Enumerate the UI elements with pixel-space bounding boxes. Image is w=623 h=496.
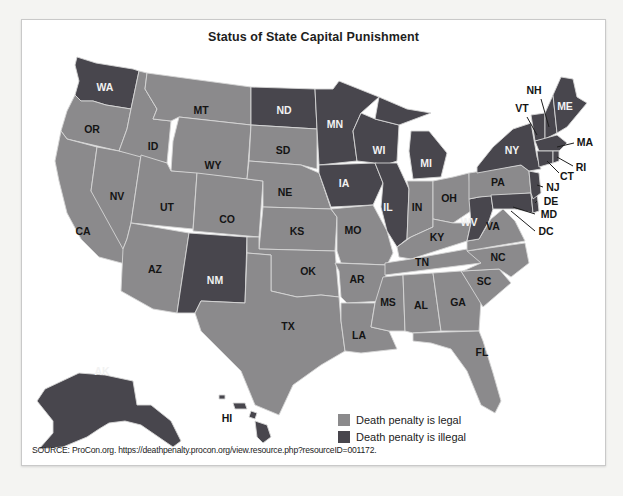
label-pa: PA — [491, 176, 505, 188]
label-la: LA — [352, 329, 366, 341]
label-mn: MN — [327, 118, 343, 130]
label-va: VA — [486, 220, 500, 232]
state-HI-4 — [255, 421, 271, 443]
label-or: OR — [84, 123, 100, 135]
legend-item-illegal: Death penalty is illegal — [338, 429, 466, 445]
label-al: AL — [414, 299, 429, 311]
label-ar: AR — [349, 273, 365, 285]
label-tn: TN — [415, 256, 429, 268]
label-wi: WI — [373, 144, 386, 156]
label-wy: WY — [205, 159, 222, 171]
label-oh: OH — [441, 192, 457, 204]
label-ms: MS — [380, 296, 396, 308]
state-MD — [491, 193, 533, 213]
label-ks: KS — [290, 225, 305, 237]
label-in: IN — [412, 201, 423, 213]
label-ny: NY — [505, 144, 520, 156]
state-MI — [409, 131, 447, 179]
us-map: WA OR CA NV ID MT WY UT CO AZ NM ND SD N… — [22, 20, 605, 465]
legend-label-illegal: Death penalty is illegal — [356, 431, 466, 443]
label-nj: NJ — [546, 181, 560, 193]
label-fl: FL — [476, 346, 489, 358]
label-sc: SC — [477, 275, 492, 287]
label-mi: MI — [420, 157, 432, 169]
label-nc: NC — [490, 251, 506, 263]
state-HI-3 — [249, 411, 257, 419]
label-vt: VT — [515, 102, 529, 114]
state-RI — [553, 151, 559, 163]
label-il: IL — [383, 201, 393, 213]
label-ne: NE — [278, 186, 293, 198]
label-de: DE — [544, 195, 559, 207]
label-hi: HI — [222, 412, 233, 424]
map-legend: Death penalty is legal Death penalty is … — [338, 412, 466, 446]
label-ca: CA — [75, 225, 91, 237]
label-ky: KY — [430, 231, 445, 243]
label-me: ME — [557, 100, 573, 112]
label-nh: NH — [526, 84, 541, 96]
state-FL — [413, 331, 501, 413]
label-ia: IA — [339, 177, 350, 189]
illegal-swatch — [338, 431, 350, 443]
leader-ri — [557, 157, 573, 166]
label-tx: TX — [281, 320, 294, 332]
map-figure: Status of State Capital Punishment — [21, 19, 606, 466]
label-ak: AK — [94, 365, 110, 377]
state-AK — [37, 373, 181, 449]
label-ma: MA — [577, 136, 594, 148]
legend-label-legal: Death penalty is legal — [356, 414, 461, 426]
state-HI-1 — [219, 395, 225, 399]
state-IA — [319, 163, 383, 207]
label-az: AZ — [148, 263, 163, 275]
state-MT — [145, 73, 251, 125]
label-id: ID — [148, 140, 159, 152]
label-mt: MT — [193, 104, 209, 116]
label-nv: NV — [110, 190, 125, 202]
label-ri: RI — [576, 161, 587, 173]
label-nd: ND — [276, 104, 292, 116]
label-dc: DC — [538, 225, 554, 237]
state-HI-2 — [233, 403, 247, 409]
label-co: CO — [219, 213, 235, 225]
label-sd: SD — [276, 144, 291, 156]
label-ut: UT — [160, 201, 175, 213]
legal-swatch — [338, 414, 350, 426]
state-MI-up — [375, 97, 431, 125]
label-ok: OK — [300, 265, 316, 277]
legend-item-legal: Death penalty is legal — [338, 412, 466, 428]
label-md: MD — [541, 208, 558, 220]
label-mo: MO — [345, 224, 362, 236]
source-note: SOURCE: ProCon.org. https://deathpenalty… — [32, 445, 376, 455]
label-wa: WA — [97, 81, 114, 93]
label-ga: GA — [450, 296, 466, 308]
state-CO — [193, 173, 263, 237]
label-nm: NM — [207, 274, 224, 286]
label-wv: WV — [461, 216, 478, 228]
label-ct: CT — [560, 170, 575, 182]
